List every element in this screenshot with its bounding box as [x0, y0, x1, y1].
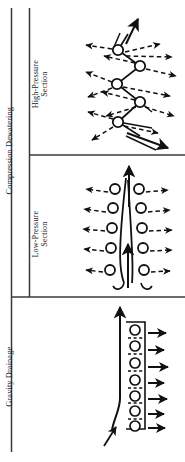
high-pressure-roller — [113, 117, 123, 127]
high-pressure-roller — [113, 45, 123, 55]
low-pressure-roller-left — [110, 184, 120, 194]
zone-label-high-pressure-section: High-Pressure Section — [31, 46, 49, 122]
gravity-roller — [130, 341, 140, 351]
zone-label-high-pressure-line2: Section — [40, 46, 49, 122]
gravity-belt-path — [112, 318, 120, 430]
low-pressure-roller-left — [105, 265, 115, 275]
belt-press-dewatering-figure: Compression Dewatering Gravity Drainage … — [0, 0, 185, 462]
diagram-canvas — [0, 0, 185, 462]
zone-label-low-pressure-section: Low-Pressure Section — [31, 196, 49, 272]
high-pressure-roller — [135, 61, 145, 71]
zone-label-gravity-drainage: Gravity Drainage — [5, 339, 14, 415]
low-pressure-roller-right — [137, 223, 147, 233]
low-pressure-filtrate-arrows-left — [83, 189, 108, 272]
low-pressure-roller-right — [139, 265, 149, 275]
zone-label-low-pressure-line2: Section — [40, 196, 49, 272]
high-pressure-outlet-arrow — [126, 19, 138, 44]
low-pressure-belt-upper — [120, 178, 126, 283]
zone-label-high-pressure-line1: High-Pressure — [31, 46, 40, 122]
gravity-belt-inlet-arrow — [104, 427, 116, 446]
low-pressure-roller-left — [108, 203, 118, 213]
group-label-compression-dewatering: Compression Dewatering — [5, 101, 14, 201]
zone-label-low-pressure-line1: Low-Pressure — [31, 196, 40, 272]
low-pressure-return-hook-left — [113, 283, 124, 289]
gravity-drainage-arrows — [148, 333, 168, 428]
high-pressure-diagram — [86, 19, 176, 150]
low-pressure-roller-right — [136, 203, 146, 213]
gravity-drainage-diagram — [104, 307, 168, 446]
gravity-roller — [130, 325, 140, 335]
gravity-roller — [130, 391, 140, 401]
gravity-roller — [130, 375, 140, 385]
low-pressure-filtrate-arrows-right — [146, 190, 172, 272]
gravity-roller — [130, 421, 140, 431]
high-pressure-filtrate-arrows — [86, 44, 176, 140]
low-pressure-diagram — [83, 166, 172, 289]
low-pressure-roller-left — [107, 223, 117, 233]
gravity-roller — [130, 406, 140, 416]
low-pressure-roller-left — [106, 243, 116, 253]
gravity-roller — [130, 358, 140, 368]
high-pressure-roller — [135, 97, 145, 107]
low-pressure-return-hook-right — [141, 283, 152, 289]
low-pressure-roller-right — [138, 243, 148, 253]
high-pressure-roller — [112, 79, 122, 89]
low-pressure-roller-right — [134, 184, 144, 194]
